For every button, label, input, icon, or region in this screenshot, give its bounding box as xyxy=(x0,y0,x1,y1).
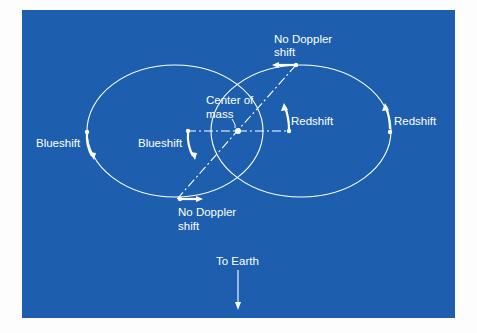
redshift-outer-dot xyxy=(388,130,392,134)
blueshift-inner-dot xyxy=(186,129,190,133)
label-redshift-inner: Redshift xyxy=(291,115,333,128)
label-no-doppler-bottom-2: shift xyxy=(178,220,199,233)
blueshift-outer-dot xyxy=(85,130,89,134)
label-no-doppler-top: No Doppler xyxy=(274,33,332,46)
label-no-doppler-top-2: shift xyxy=(274,46,295,59)
redshift-inner-dot xyxy=(287,129,291,133)
label-to-earth: To Earth xyxy=(216,255,259,268)
label-redshift-outer: Redshift xyxy=(394,115,436,128)
label-no-doppler-bottom: No Doppler xyxy=(178,206,236,219)
to-earth-arrowhead xyxy=(235,302,241,310)
orbit-diagram xyxy=(0,0,477,333)
center-of-mass-dot xyxy=(235,128,241,134)
nodoppler-bottom-dot xyxy=(178,197,182,201)
label-blueshift-inner: Blueshift xyxy=(138,137,182,150)
label-center-of-mass: Center of xyxy=(206,94,253,107)
label-blueshift-outer: Blueshift xyxy=(36,137,80,150)
label-center-of-mass-2: mass xyxy=(206,108,233,121)
redshift-inner-arrowhead xyxy=(281,103,288,111)
nodoppler-top-dot xyxy=(294,63,298,67)
blueshift-inner-arrowhead xyxy=(190,152,197,160)
nodoppler-bottom-arrowhead xyxy=(196,196,203,202)
